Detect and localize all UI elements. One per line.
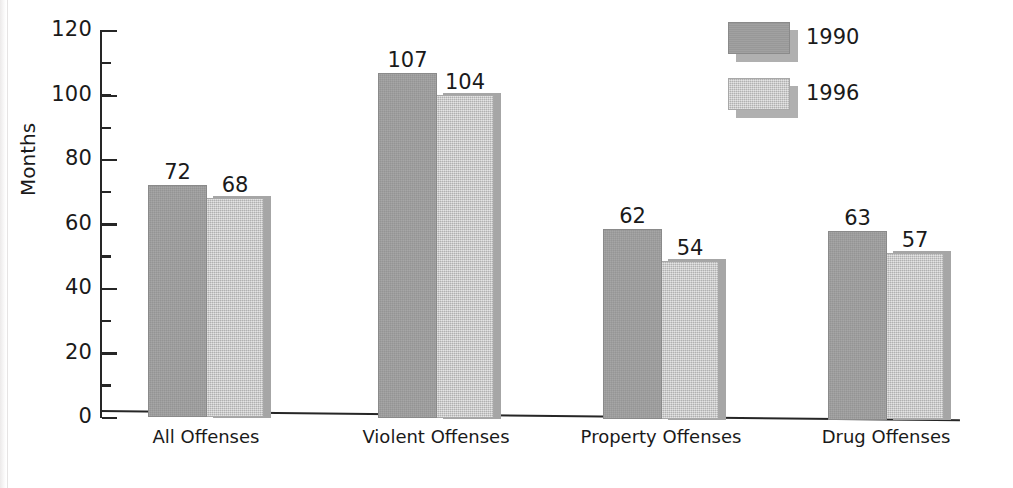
category-label-drug-offenses: Drug Offenses	[786, 426, 986, 447]
bar-drug-offenses-1996	[886, 253, 944, 419]
bar-value-property-1996: 54	[661, 236, 719, 260]
bar-property-offenses-1996	[661, 261, 719, 419]
ytick-20	[102, 353, 117, 355]
bar-value-drug-1990: 63	[828, 206, 887, 230]
ytick-110	[102, 62, 111, 64]
bar-value-all-1990: 72	[148, 160, 207, 184]
category-label-property-offenses: Property Offenses	[561, 426, 761, 447]
legend-swatch-1990	[728, 22, 790, 54]
plot-area: 120 100 80 60 40 20 0 Months 72 68 All O…	[0, 0, 1013, 488]
bar-all-offenses-1990	[148, 185, 207, 417]
ytick-10	[102, 385, 111, 387]
bar-all-offenses-1996	[206, 198, 264, 417]
bar-drug-offenses-1990	[828, 231, 887, 420]
bar-violent-offenses-1990	[378, 73, 437, 418]
bar-violent-offenses-1996	[436, 95, 494, 418]
ytick-100	[102, 95, 117, 97]
ytick-50	[102, 256, 111, 258]
tick-20	[102, 417, 117, 419]
legend-label-1996: 1996	[806, 81, 859, 105]
bar-value-drug-1996: 57	[886, 228, 944, 252]
ytick-70	[102, 191, 111, 193]
ytick-60	[102, 224, 117, 226]
bar-value-property-1990: 62	[603, 204, 662, 228]
bar-value-violent-1996: 104	[436, 70, 494, 94]
category-label-all-offenses: All Offenses	[106, 426, 306, 447]
legend-swatch-1996	[728, 78, 790, 110]
bar-value-all-1996: 68	[206, 173, 264, 197]
ytick-30	[102, 320, 111, 322]
bar-value-violent-1990: 107	[378, 48, 437, 72]
ytick-40	[102, 288, 117, 290]
ytick-120	[102, 30, 117, 32]
ytick-80	[102, 159, 117, 161]
y-axis-title: Months	[16, 123, 40, 196]
legend-label-1990: 1990	[806, 25, 859, 49]
bar-property-offenses-1990	[603, 229, 662, 419]
bar-chart: 120 100 80 60 40 20 0 Months 72 68 All O…	[0, 0, 1013, 488]
category-label-violent-offenses: Violent Offenses	[336, 426, 536, 447]
ytick-90	[102, 127, 111, 129]
